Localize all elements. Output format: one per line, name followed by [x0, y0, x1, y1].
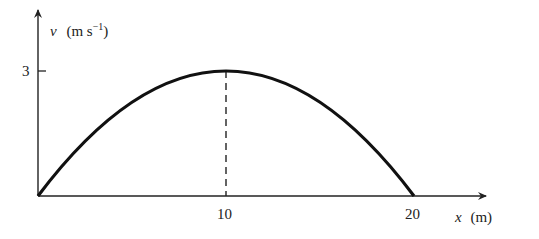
y-axis-label: v (m s−1) [50, 21, 108, 40]
x-tick-label-10: 10 [217, 206, 232, 222]
y-tick-label: 3 [22, 63, 30, 79]
x-axis-label: x (m) [454, 209, 492, 226]
x-tick-label-20: 20 [405, 206, 420, 222]
chart: 3 10 20 v (m s−1) x (m) [0, 0, 539, 239]
